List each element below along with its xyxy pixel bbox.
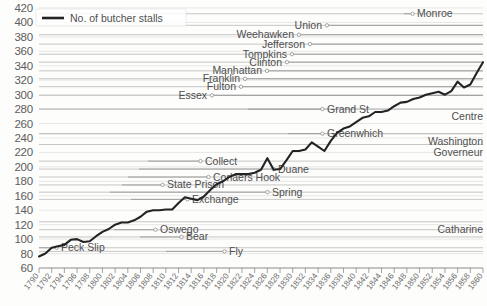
x-axis-tick-labels: 1790179217941796179818001802180418061808… — [22, 271, 485, 291]
annotation-label-governeur: Governeur — [433, 146, 483, 158]
annotation-label-union: Union — [295, 19, 323, 31]
annotation-dot-state-prison — [161, 183, 164, 186]
annotation-label-catharine: Catharine — [437, 223, 483, 235]
annotation-label-centre: Centre — [451, 110, 483, 122]
annotation-dot-tompkins — [290, 53, 293, 56]
annotation-dot-union — [325, 24, 328, 27]
annotation-dot-monroe — [411, 12, 414, 15]
y-tick-label: 240 — [14, 132, 33, 144]
y-tick-label: 360 — [14, 45, 33, 57]
legend: No. of butcher stalls — [36, 9, 186, 26]
y-tick-label: 260 — [14, 118, 33, 130]
y-axis-tick-labels: 6080100120140160180200220240260280300320… — [14, 2, 33, 274]
annotation-dot-essex — [210, 94, 213, 97]
chart-canvas: 6080100120140160180200220240260280300320… — [0, 0, 487, 306]
y-tick-label: 280 — [14, 103, 33, 115]
annotation-dot-franklin — [243, 77, 246, 80]
annotation-labels: MonroeUnionWeehawkenJeffersonTompkinsCli… — [61, 7, 484, 257]
y-tick-label: 60 — [21, 262, 33, 274]
annotation-dot-fulton — [239, 85, 242, 88]
y-tick-label: 220 — [14, 146, 33, 158]
legend-label: No. of butcher stalls — [70, 12, 163, 24]
annotation-label-essex: Essex — [178, 89, 207, 101]
butcher-stalls-line — [39, 62, 483, 256]
annotation-dot-fly — [223, 250, 226, 253]
y-tick-label: 340 — [14, 60, 33, 72]
annotation-dot-clinton — [285, 60, 288, 63]
annotation-dot-greenwhich — [321, 132, 324, 135]
y-tick-label: 140 — [14, 204, 33, 216]
annotation-label-monroe: Monroe — [417, 7, 453, 19]
annotation-label-bear: Bear — [186, 230, 209, 242]
annotation-label-grand-st: Grand St — [327, 103, 369, 115]
annotation-dot-grand-st — [321, 107, 324, 110]
annotation-dot-bear — [180, 235, 183, 238]
y-tick-label: 300 — [14, 89, 33, 101]
y-tick-label: 100 — [14, 233, 33, 245]
y-tick-label: 420 — [14, 2, 33, 14]
annotation-label-fly: Fly — [229, 245, 244, 257]
y-tick-label: 80 — [21, 248, 33, 260]
annotation-dot-oswego — [154, 228, 157, 231]
annotation-dot-collect — [199, 159, 202, 162]
annotation-label-collect: Collect — [205, 155, 237, 167]
annotation-dot-weehawken — [297, 33, 300, 36]
annotation-dot-manhattan — [265, 69, 268, 72]
y-tick-label: 320 — [14, 74, 33, 86]
y-tick-label: 120 — [14, 219, 33, 231]
y-tick-label: 160 — [14, 190, 33, 202]
x-tick-label: 1860 — [466, 271, 485, 291]
y-tick-label: 400 — [14, 16, 33, 28]
annotation-label-fulton: Fulton — [207, 80, 236, 92]
y-tick-label: 180 — [14, 175, 33, 187]
annotation-dot-spring — [266, 190, 269, 193]
annotation-dot-jefferson — [308, 42, 311, 45]
y-tick-label: 380 — [14, 31, 33, 43]
y-tick-label: 200 — [14, 161, 33, 173]
annotation-label-greenwhich: Greenwhich — [327, 127, 383, 139]
annotation-label-spring: Spring — [272, 186, 303, 198]
butcher-stalls-chart: 6080100120140160180200220240260280300320… — [0, 0, 487, 306]
